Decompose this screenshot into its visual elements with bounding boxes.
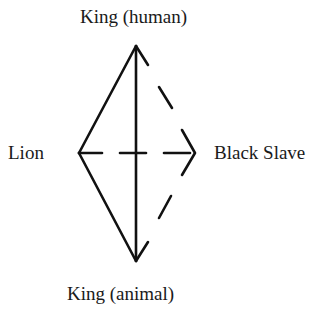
arrowhead-up-icon	[136, 46, 148, 65]
diagram-graphic	[0, 0, 331, 326]
edge-black-slave-king-animal	[159, 196, 171, 218]
arrowhead-down-icon	[136, 242, 148, 261]
edge-lion-king-human	[79, 46, 136, 153]
edge-king-human-black-slave	[159, 87, 172, 108]
edge-lion-king-animal	[79, 153, 136, 261]
